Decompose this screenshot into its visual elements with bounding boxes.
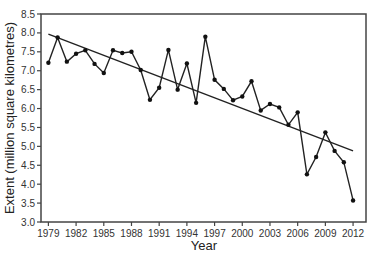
data-point bbox=[166, 48, 170, 52]
data-point bbox=[249, 79, 253, 83]
data-point bbox=[305, 172, 309, 176]
data-point bbox=[240, 94, 244, 98]
data-point bbox=[83, 48, 87, 52]
x-tick-label: 1982 bbox=[65, 228, 88, 239]
data-point bbox=[259, 108, 263, 112]
data-point bbox=[212, 78, 216, 82]
sea-ice-extent-chart: 3.03.54.04.55.05.56.06.57.07.58.08.5 197… bbox=[0, 0, 374, 256]
y-tick-label: 5.0 bbox=[21, 141, 35, 152]
y-tick-label: 7.5 bbox=[21, 46, 35, 57]
x-tick-label: 2000 bbox=[231, 228, 254, 239]
data-point bbox=[231, 98, 235, 102]
y-tick-label: 5.5 bbox=[21, 122, 35, 133]
data-point bbox=[314, 155, 318, 159]
data-point bbox=[102, 71, 106, 75]
x-tick-label: 1979 bbox=[37, 228, 60, 239]
data-point bbox=[148, 98, 152, 102]
data-point bbox=[46, 61, 50, 65]
data-point bbox=[342, 160, 346, 164]
data-point bbox=[120, 51, 124, 55]
data-point bbox=[222, 87, 226, 91]
data-point bbox=[129, 50, 133, 54]
data-point bbox=[157, 86, 161, 90]
data-point bbox=[185, 61, 189, 65]
x-tick-label: 1985 bbox=[93, 228, 116, 239]
data-point bbox=[332, 149, 336, 153]
trend-line bbox=[48, 34, 353, 151]
x-tick-label: 1991 bbox=[148, 228, 171, 239]
x-tick-label: 2006 bbox=[287, 228, 310, 239]
x-tick-label: 2009 bbox=[314, 228, 337, 239]
y-axis-title: Extent (million square kilometres) bbox=[2, 22, 17, 214]
y-tick-label: 6.5 bbox=[21, 84, 35, 95]
data-point bbox=[351, 198, 355, 202]
data-point bbox=[65, 59, 69, 63]
data-point bbox=[194, 101, 198, 105]
x-axis-title: Year bbox=[191, 238, 218, 253]
data-point bbox=[323, 130, 327, 134]
data-point bbox=[55, 35, 59, 39]
x-tick-label: 1988 bbox=[120, 228, 143, 239]
data-point bbox=[74, 52, 78, 56]
data-point bbox=[277, 105, 281, 109]
data-point bbox=[92, 62, 96, 66]
y-tick-label: 3.5 bbox=[21, 198, 35, 209]
x-tick-label: 2003 bbox=[259, 228, 282, 239]
y-tick-label: 7.0 bbox=[21, 65, 35, 76]
data-point bbox=[295, 110, 299, 114]
y-tick-label: 6.0 bbox=[21, 103, 35, 114]
data-point bbox=[139, 68, 143, 72]
y-axis-ticks: 3.03.54.04.55.05.56.06.57.07.58.08.5 bbox=[21, 9, 41, 228]
data-point bbox=[203, 34, 207, 38]
y-tick-label: 8.0 bbox=[21, 27, 35, 38]
data-point bbox=[175, 87, 179, 91]
x-axis-ticks: 1979198219851988199119941997200020032006… bbox=[37, 222, 364, 239]
y-tick-label: 4.5 bbox=[21, 160, 35, 171]
x-tick-label: 2012 bbox=[342, 228, 365, 239]
data-point bbox=[286, 123, 290, 127]
data-point bbox=[111, 48, 115, 52]
data-point bbox=[268, 102, 272, 106]
y-tick-label: 8.5 bbox=[21, 9, 35, 20]
y-tick-label: 4.0 bbox=[21, 179, 35, 190]
y-tick-label: 3.0 bbox=[21, 217, 35, 228]
